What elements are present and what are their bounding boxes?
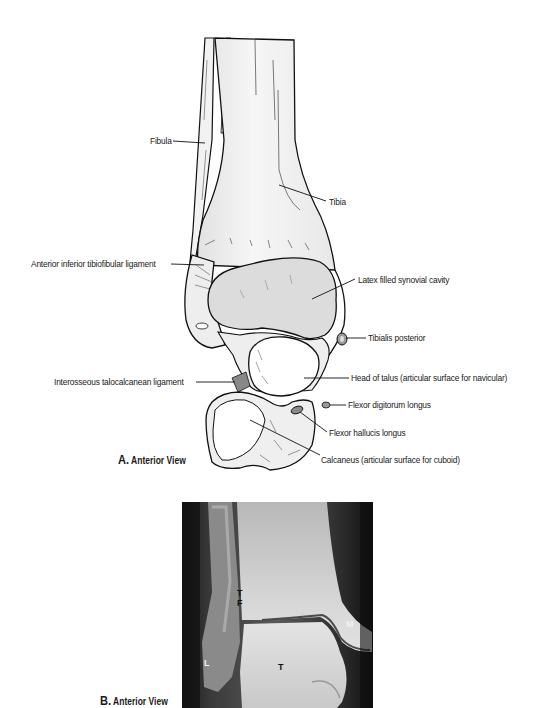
- label-latex-filled-synovial-cavity: Latex filled synovial cavity: [358, 275, 449, 285]
- latex-synovial-cavity: [208, 258, 336, 339]
- label-head-of-talus: Head of talus (articular surface for nav…: [351, 373, 507, 383]
- label-flexor-digitorum-longus: Flexor digitorum longus: [348, 400, 431, 410]
- caption-b-text: Anterior View: [113, 696, 168, 707]
- xray-label-l-lateral: L: [204, 658, 210, 668]
- xray-label-f-fibula: F: [237, 598, 243, 608]
- caption-b-letter: B.: [100, 693, 111, 708]
- tibia-bone: [198, 38, 335, 270]
- label-anterior-inferior-tibiofibular-ligament: Anterior inferior tibiofibular ligament: [31, 259, 156, 269]
- ankle-anterior-illustration: [0, 0, 551, 500]
- label-fibula: Fibula: [150, 136, 172, 146]
- caption-a-text: Anterior View: [131, 455, 186, 466]
- flexor-digitorum-longus-tendon: [322, 402, 330, 408]
- xray-label-m-medial: M: [346, 619, 354, 629]
- caption-panel-b: B. Anterior View: [100, 693, 168, 708]
- label-tibialis-posterior: Tibialis posterior: [368, 333, 425, 343]
- label-flexor-hallucis-longus: Flexor hallucis longus: [329, 428, 406, 438]
- xray-label-t-talus: T: [278, 662, 284, 672]
- caption-a-letter: A.: [118, 452, 129, 467]
- label-calcaneus: Calcaneus (articular surface for cuboid): [321, 455, 460, 465]
- caption-panel-a: A. Anterior View: [118, 452, 186, 467]
- head-of-talus: [249, 337, 319, 396]
- ankle-xray-image: T F M L T: [182, 502, 373, 708]
- label-interosseous-talocalcanean-ligament: Interosseous talocalcanean ligament: [54, 377, 184, 387]
- fibular-foramen: [196, 323, 208, 329]
- xray-label-t-tibia: T: [237, 588, 243, 598]
- label-tibia: Tibia: [329, 197, 346, 207]
